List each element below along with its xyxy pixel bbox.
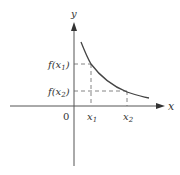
x-axis-label: x (168, 100, 175, 113)
x1-label: x1 (87, 111, 97, 124)
x-axis (10, 103, 165, 109)
y-axis-label: y (70, 8, 77, 19)
x-axis-arrow-icon (156, 103, 165, 109)
y-axis (71, 22, 77, 166)
decreasing-function-diagram: x y 0 f(x1) f(x2) x1 x2 (0, 0, 180, 175)
x2-label: x2 (123, 111, 134, 124)
origin-label: 0 (63, 111, 69, 122)
fx2-label: f(x2) (47, 86, 70, 99)
decreasing-curve (81, 42, 149, 98)
y-axis-arrow-icon (71, 22, 77, 31)
fx1-label: f(x1) (47, 59, 70, 72)
dashed-guides (74, 64, 127, 106)
